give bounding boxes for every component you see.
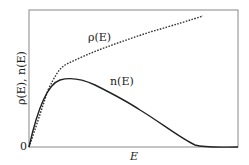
n-label: n(E) [110,75,134,88]
chart: ρ(E) n(E) E 0 ρ(E), n(E) [0,0,249,165]
y-axis-label: ρ(E), n(E) [15,51,28,105]
origin-label: 0 [20,140,27,153]
x-axis-label: E [129,150,138,163]
n-curve [29,78,238,147]
rho-label: ρ(E) [88,31,111,44]
